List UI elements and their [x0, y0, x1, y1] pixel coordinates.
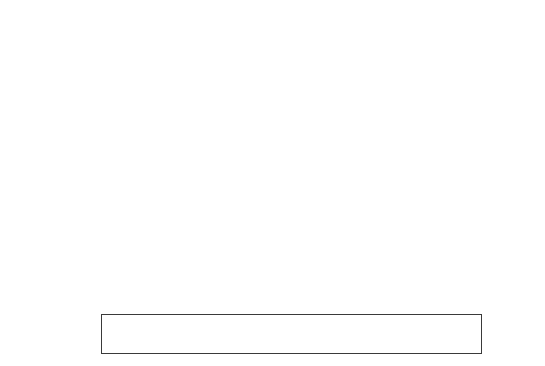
chart-legend [101, 314, 482, 354]
chart-figure [0, 0, 545, 366]
plot-area [0, 0, 545, 366]
